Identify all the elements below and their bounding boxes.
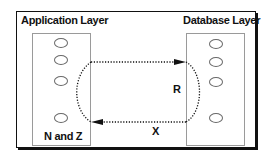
arrowhead-left-icon	[91, 119, 103, 125]
arrowhead-right-icon	[174, 59, 186, 65]
app-arc	[77, 62, 91, 122]
connection-arrows	[0, 0, 271, 159]
db-arc	[186, 62, 200, 122]
app-layer-node-label: N and Z	[44, 130, 82, 142]
connection-label-x: X	[152, 125, 159, 137]
connection-label-r: R	[173, 83, 181, 95]
